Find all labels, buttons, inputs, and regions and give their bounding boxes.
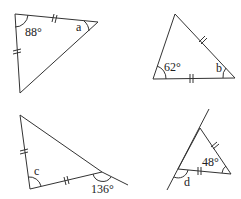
triangle-c-outline [20, 115, 102, 189]
angle-arc-b [223, 68, 226, 78]
tick-marks-right [211, 142, 219, 149]
geometry-figure: 88° a 62° b c 136° [0, 0, 241, 199]
triangle-a: 88° a [13, 14, 98, 93]
tick-marks-top [52, 14, 57, 23]
angle-label-d: d [184, 175, 190, 189]
triangle-c: c 136° [20, 115, 128, 196]
tick-marks-right [199, 36, 207, 44]
angle-label-136: 136° [91, 182, 114, 196]
tick-marks-left [20, 149, 28, 154]
triangle-d: 48° d [167, 109, 231, 190]
angle-label-62: 62° [164, 60, 181, 74]
angle-label-a: a [76, 20, 82, 34]
angle-arc-c [28, 177, 41, 186]
triangle-b: 62° b [153, 14, 235, 83]
angle-arc-a [84, 21, 89, 31]
angle-label-88: 88° [25, 25, 42, 39]
angle-label-c: c [34, 164, 39, 178]
angle-label-b: b [216, 61, 222, 75]
angle-arc-48 [222, 166, 226, 173]
angle-label-48: 48° [202, 155, 219, 169]
